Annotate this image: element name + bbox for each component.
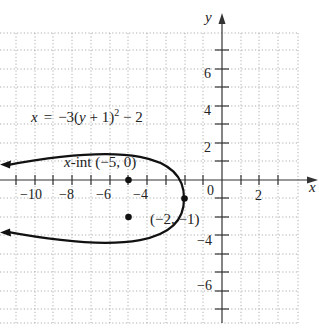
equation-label: x=−3(y + 1)2 − 2 [30, 107, 143, 126]
point-vertex [181, 195, 188, 202]
x-axis-label: x [308, 179, 316, 195]
curve-arrow-lower [0, 229, 11, 237]
tick-label-y-2: 2 [204, 140, 211, 155]
tick-label-origin: 0 [207, 183, 214, 198]
tick-label-x-m4: −4 [133, 187, 148, 202]
tick-label-x-2: 2 [255, 188, 262, 203]
x-tick-labels: −10 −8 −6 −4 0 2 [20, 183, 262, 203]
tick-label-y-m4: −4 [197, 233, 212, 248]
point-lower [125, 214, 132, 221]
y-axis-label: y [203, 9, 212, 25]
tick-label-x-m8: −8 [59, 187, 74, 202]
tick-label-x-m6: −6 [96, 187, 111, 202]
tick-label-y-m6: −6 [197, 278, 212, 293]
vertex-label: (−2, −1) [150, 211, 199, 228]
tick-label-y-4: 4 [204, 103, 211, 118]
tick-label-x-m10: −10 [20, 187, 42, 202]
curve-arrow-upper [0, 161, 11, 169]
x-intercept-label: x-int (−5, 0) [63, 154, 136, 171]
y-axis [215, 13, 229, 323]
grid [0, 33, 298, 323]
parabola-graph: −10 −8 −6 −4 0 2 6 4 2 −4 −6 y x x=−3(y … [0, 0, 319, 333]
tick-label-y-6: 6 [204, 66, 211, 81]
x-axis [0, 175, 318, 185]
point-x-intercept [125, 177, 132, 184]
